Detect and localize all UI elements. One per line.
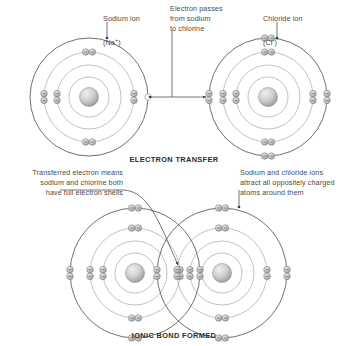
chloride-ion-bonded <box>154 205 291 342</box>
label-chloride-ion-formula: (Cl-) <box>263 38 277 47</box>
label-sodium-ion: Sodium ion (Na+) <box>103 4 173 48</box>
nucleus <box>80 88 99 107</box>
label-sodium-ion-formula: (Na+) <box>103 38 121 47</box>
label-attract-note: Sodium and chloride ions attract all opp… <box>240 168 348 199</box>
nucleus <box>126 264 145 283</box>
leader-dot-attract <box>238 206 241 209</box>
transfer-arrow-origin-dot <box>149 96 152 99</box>
nucleus <box>259 88 278 107</box>
label-chloride-ion: Chloride ion (Cl-) <box>263 4 335 48</box>
nucleus <box>213 264 232 283</box>
label-chloride-ion-line1: Chloride ion <box>263 14 303 23</box>
label-transferred-electron-note: Transferred electron means sodium and ch… <box>8 168 123 199</box>
chloride-ion <box>206 35 331 160</box>
label-electron-passes: Electron passes from sodium to chlorine <box>170 4 240 35</box>
sodium-ion <box>30 38 151 156</box>
caption-electron-transfer: ELECTRON TRANSFER <box>0 155 348 164</box>
sodium-ion-bonded <box>67 205 204 342</box>
ionic-bonding-diagram: Sodium ion (Na+) Electron passes from so… <box>0 0 348 346</box>
label-sodium-ion-line1: Sodium ion <box>103 14 140 23</box>
caption-ionic-bond-formed: IONIC BOND FORMED <box>0 331 348 340</box>
